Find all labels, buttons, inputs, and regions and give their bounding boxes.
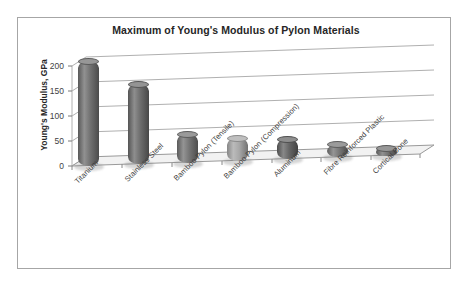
y-tick-label-100: 100 [34,112,64,121]
chart-figure: Maximum of Young's Modulus of Pylon Mate… [0,0,470,289]
gridline-200 [86,45,434,57]
y-tick-marks [68,66,72,166]
y-tick-label-200: 200 [34,62,64,71]
y-tick-label-150: 150 [34,87,64,96]
bar-body [128,84,149,164]
y-tick-label-0: 0 [34,162,64,171]
bar-cap [277,136,298,143]
y-tick-label-50: 50 [34,137,64,146]
bar-body [78,61,99,166]
bar-cap [227,135,248,142]
bar-cap [78,58,99,65]
bar-cap [177,131,198,138]
bar-cap [128,81,149,88]
bar-1[interactable] [128,84,149,164]
bar-0[interactable] [78,61,99,166]
